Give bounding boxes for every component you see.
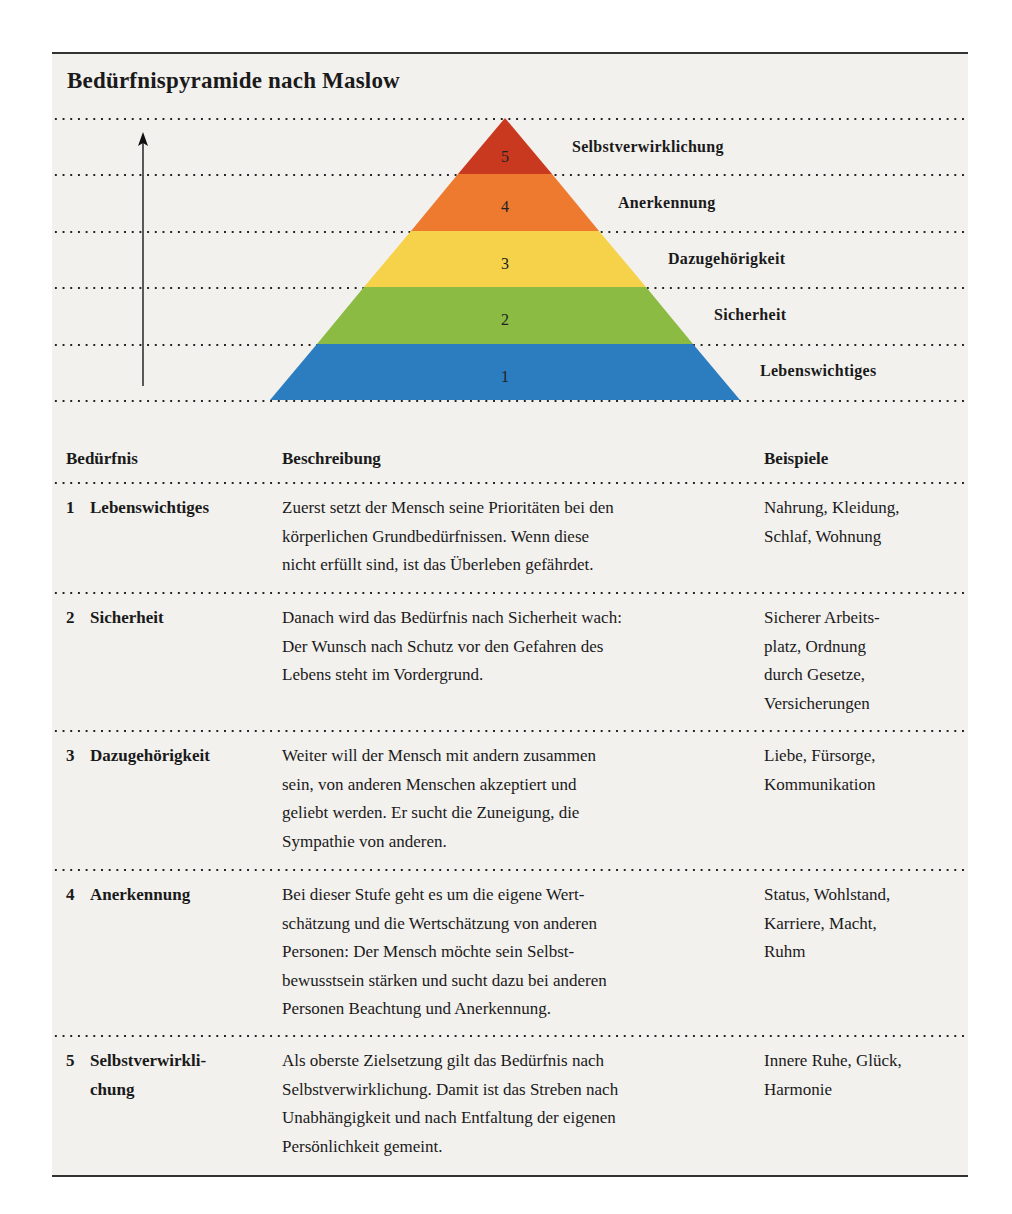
row-number: 1 (66, 494, 90, 523)
level-number: 1 (501, 368, 509, 385)
maslow-panel: Bedürfnispyramide nach Maslow 5 4 3 2 1 … (52, 52, 968, 1177)
examples-line: durch Gesetze, (764, 661, 964, 690)
description-line: Weiter will der Mensch mit andern zusamm… (282, 742, 750, 771)
examples-line: Sicherer Arbeits- (764, 604, 964, 633)
description-line: körperlichen Grundbedürfnissen. Wenn die… (282, 523, 750, 552)
description-line: Danach wird das Bedürfnis nach Sicherhei… (282, 604, 750, 633)
row-number: 5 (66, 1047, 90, 1076)
need-name: Selbstverwirkli- (90, 1047, 266, 1076)
examples-line: Harmonie (764, 1076, 964, 1105)
description-line: Persönlichkeit gemeint. (282, 1133, 750, 1162)
level-number: 3 (501, 255, 509, 272)
page-title: Bedürfnispyramide nach Maslow (67, 68, 400, 94)
description: Zuerst setzt der Mensch seine Prioritäte… (282, 494, 750, 580)
description-line: nicht erfüllt sind, ist das Überleben ge… (282, 551, 750, 580)
examples: Innere Ruhe, Glück, Harmonie (764, 1047, 964, 1104)
examples-line: Liebe, Fürsorge, (764, 742, 964, 771)
description-line: Personen: Der Mensch möchte sein Selbst- (282, 938, 750, 967)
level-number: 4 (501, 198, 509, 215)
description-line: geliebt werden. Er sucht die Zuneigung, … (282, 799, 750, 828)
examples-line: Versicherungen (764, 690, 964, 719)
description-line: sein, von anderen Menschen akzeptiert un… (282, 771, 750, 800)
row-number: 4 (66, 881, 90, 910)
examples-line: Status, Wohlstand, (764, 881, 964, 910)
examples: Liebe, Fürsorge, Kommunikation (764, 742, 964, 799)
up-arrow-icon (136, 132, 150, 388)
examples-line: platz, Ordnung (764, 633, 964, 662)
level-number: 5 (501, 148, 509, 165)
dotted-divider (52, 482, 968, 484)
examples: Status, Wohlstand, Karriere, Macht, Ruhm (764, 881, 964, 967)
pyramid-label-3: Dazugehörigkeit (668, 250, 785, 268)
description-line: Sympathie von anderen. (282, 828, 750, 857)
description-line: Lebens steht im Vordergrund. (282, 661, 750, 690)
description-line: Als oberste Zielsetzung gilt das Bedürfn… (282, 1047, 750, 1076)
description-line: Selbstverwirklichung. Damit ist das Stre… (282, 1076, 750, 1105)
examples: Nahrung, Kleidung, Schlaf, Wohnung (764, 494, 964, 551)
column-header-need: Bedürfnis (66, 449, 138, 469)
need-name: Anerkennung (90, 881, 266, 910)
description-line: Personen Beachtung und Anerkennung. (282, 995, 750, 1024)
column-header-description: Beschreibung (282, 449, 381, 469)
description-line: Zuerst setzt der Mensch seine Prioritäte… (282, 494, 750, 523)
examples-line: Kommunikation (764, 771, 964, 800)
description-line: Der Wunsch nach Schutz vor den Gefahren … (282, 633, 750, 662)
dotted-divider (52, 730, 968, 732)
level-number: 2 (501, 311, 509, 328)
description: Danach wird das Bedürfnis nach Sicherhei… (282, 604, 750, 690)
dotted-divider (52, 592, 968, 594)
description-line: schätzung und die Wertschätzung von ande… (282, 910, 750, 939)
examples-line: Schlaf, Wohnung (764, 523, 964, 552)
description-line: Unabhängigkeit und nach Entfaltung der e… (282, 1104, 750, 1133)
description: Bei dieser Stufe geht es um die eigene W… (282, 881, 750, 1024)
description-line: bewusstsein stärken und sucht dazu bei a… (282, 967, 750, 996)
need-name: Dazugehörigkeit (90, 742, 266, 771)
row-number: 3 (66, 742, 90, 771)
dotted-divider (52, 869, 968, 871)
pyramid-label-2: Sicherheit (714, 306, 786, 324)
need-name: Lebenswichtiges (90, 494, 266, 523)
pyramid-level-5 (458, 118, 552, 174)
pyramid-label-5: Selbstverwirklichung (572, 138, 724, 156)
examples-line: Ruhm (764, 938, 964, 967)
pyramid-label-4: Anerkennung (618, 194, 716, 212)
row-number: 2 (66, 604, 90, 633)
dotted-divider (52, 1035, 968, 1037)
examples-line: Innere Ruhe, Glück, (764, 1047, 964, 1076)
column-header-examples: Beispiele (764, 449, 828, 469)
examples-line: Nahrung, Kleidung, (764, 494, 964, 523)
examples-line: Karriere, Macht, (764, 910, 964, 939)
examples: Sicherer Arbeits- platz, Ordnung durch G… (764, 604, 964, 718)
need-name: Sicherheit (90, 604, 266, 633)
description: Als oberste Zielsetzung gilt das Bedürfn… (282, 1047, 750, 1161)
need-name: chung (90, 1076, 266, 1105)
description-line: Bei dieser Stufe geht es um die eigene W… (282, 881, 750, 910)
pyramid-label-1: Lebenswichtiges (760, 362, 877, 380)
description: Weiter will der Mensch mit andern zusamm… (282, 742, 750, 856)
